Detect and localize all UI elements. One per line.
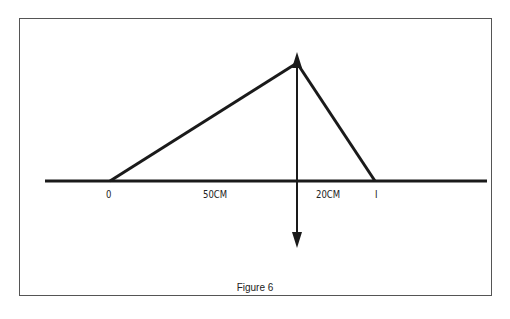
ray-diagram — [0, 0, 510, 319]
label-image-distance: 20CM — [316, 189, 340, 200]
label-image-point: I — [375, 189, 378, 200]
label-origin: 0 — [106, 189, 111, 200]
figure-caption: Figure 6 — [0, 282, 510, 293]
label-object-distance: 50CM — [203, 189, 227, 200]
ray-object-to-lens — [110, 63, 297, 181]
lens-arrow-down-icon — [292, 232, 302, 248]
ray-lens-to-image — [297, 63, 375, 181]
